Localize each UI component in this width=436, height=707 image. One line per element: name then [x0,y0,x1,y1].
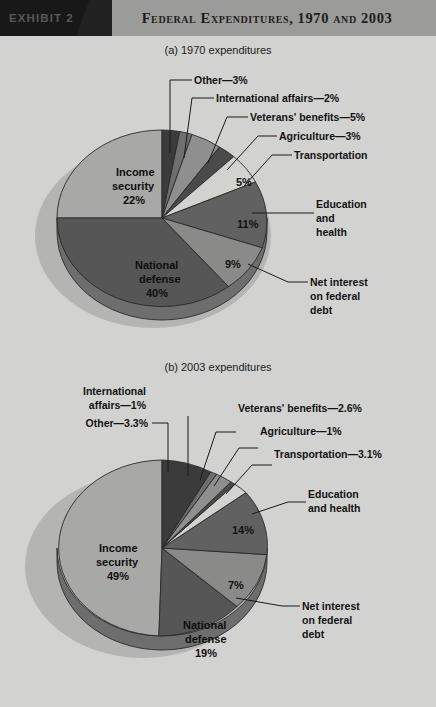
callout-education-health-line2-1970: and [316,212,335,224]
callout-net-interest-line3-1970: debt [310,304,333,316]
callout-net-interest-line1-1970: Net interest [310,276,368,288]
callout-education-health-line1-1970: Education [316,198,367,210]
label-income-security-value-2003: 49% [107,570,129,582]
callout-international-affairs-line2-2003: affairs—1% [89,399,147,411]
label-income-security-line2-1970: security [112,180,155,192]
callout-transportation-1970: Transportation [294,149,368,161]
exhibit-badge: EXHIBIT 2 [0,0,112,36]
chart-1970-caption: (a) 1970 expenditures [0,44,436,56]
callout-other-2003: Other—3.3% [86,417,149,429]
label-income-security-line1-1970: Income [116,166,155,178]
callout-agriculture-1970: Agriculture—3% [279,130,361,142]
label-income-security-line2-2003: security [96,556,139,568]
label-education-health-value-2003: 14% [232,524,254,536]
page-title: Federal Expenditures, 1970 and 2003 [142,10,393,27]
callout-agriculture-2003: Agriculture—1% [260,425,342,437]
label-income-security-line1-2003: Income [99,542,138,554]
pie-chart-2003: International affairs—1% Other—3.3% Vete… [0,376,436,696]
exhibit-badge-label: EXHIBIT 2 [9,12,74,24]
callout-international-affairs-line1-2003: International [83,385,146,397]
chart-2003-caption: (b) 2003 expenditures [0,361,436,373]
label-national-defense-line1-2003: National [183,619,226,631]
callout-education-health-line2-2003: and health [308,502,361,514]
callout-net-interest-line2-1970: on federal [310,290,360,302]
label-national-defense-line2-2003: defense [185,633,227,645]
callout-education-health-line1-2003: Education [308,488,359,500]
callout-other-1970: Other—3% [194,74,248,86]
label-net-interest-value-1970: 9% [225,258,241,270]
callout-net-interest-line2-2003: on federal [302,614,352,626]
pie-chart-1970: Other—3% International affairs—2% Vetera… [0,58,436,358]
label-education-health-value-1970: 11% [237,218,259,230]
label-net-interest-value-2003: 7% [228,579,244,591]
callout-transportation-2003: Transportation—3.1% [274,448,383,460]
callout-veterans-benefits-2003: Veterans' benefits—2.6% [238,402,363,414]
exhibit-title-container: Federal Expenditures, 1970 and 2003 [112,0,436,36]
label-national-defense-value-2003: 19% [195,647,217,659]
label-national-defense-line2-1970: defense [139,273,181,285]
label-national-defense-value-1970: 40% [146,287,168,299]
label-national-defense-line1-1970: National [135,259,178,271]
label-transportation-value-1970: 5% [236,176,252,188]
label-income-security-value-1970: 22% [123,194,145,206]
callout-international-affairs-1970: International affairs—2% [216,92,340,104]
callout-net-interest-line3-2003: debt [302,628,325,640]
callout-veterans-benefits-1970: Veterans' benefits—5% [250,111,366,123]
callout-net-interest-line1-2003: Net interest [302,600,360,612]
callout-education-health-line3-1970: health [316,226,347,238]
exhibit-header: EXHIBIT 2 Federal Expenditures, 1970 and… [0,0,436,36]
